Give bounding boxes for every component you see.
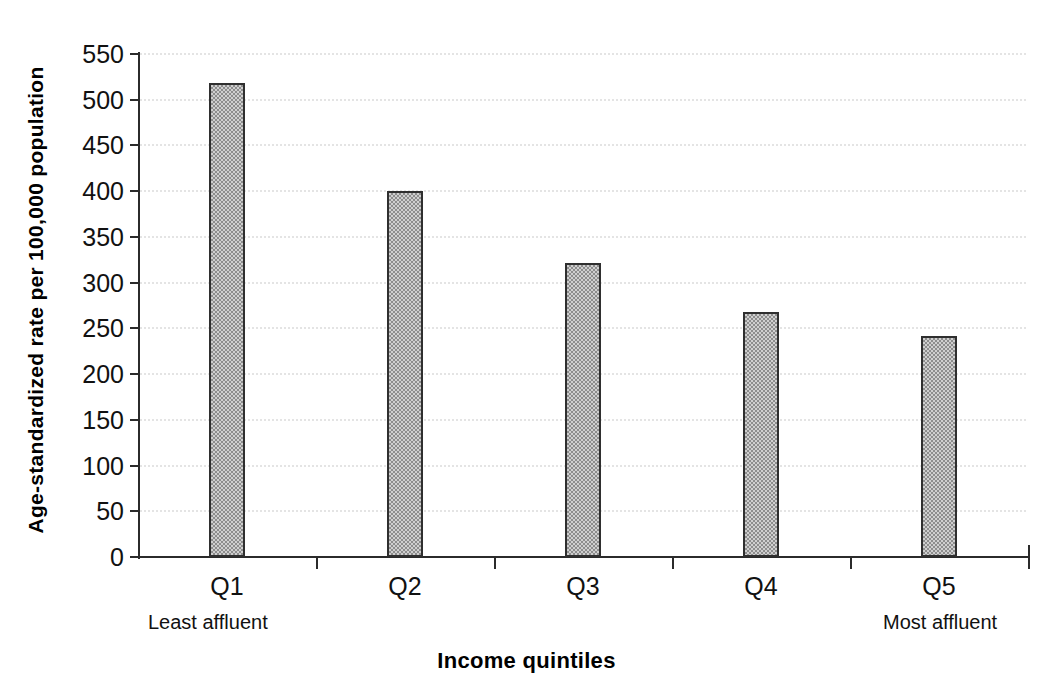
x-tick-mark <box>1028 557 1030 569</box>
y-tick-label: 300 <box>44 268 124 297</box>
y-tick-label: 0 <box>44 543 124 572</box>
annotation-most-affluent: Most affluent <box>883 611 997 634</box>
x-category-label-q4: Q4 <box>701 572 821 601</box>
x-tick-mark <box>494 557 496 569</box>
bar-q3 <box>565 263 601 557</box>
chart-page: Age-standardized rate per 100,000 popula… <box>0 0 1053 694</box>
y-tick-label: 250 <box>44 314 124 343</box>
y-tick-label: 50 <box>44 497 124 526</box>
y-tick-label: 400 <box>44 177 124 206</box>
y-tick-label: 350 <box>44 222 124 251</box>
x-tick-mark <box>316 557 318 569</box>
x-category-label-q1: Q1 <box>167 572 287 601</box>
x-category-label-q2: Q2 <box>345 572 465 601</box>
y-tick-label: 100 <box>44 451 124 480</box>
y-tick-label: 200 <box>44 360 124 389</box>
x-tick-mark <box>850 557 852 569</box>
y-tick-label: 500 <box>44 85 124 114</box>
y-tick-label: 450 <box>44 131 124 160</box>
bar-q4 <box>743 312 779 557</box>
x-category-label-q3: Q3 <box>523 572 643 601</box>
plot-area <box>138 54 1028 557</box>
bar-q2 <box>387 191 423 557</box>
x-category-label-q5: Q5 <box>879 572 999 601</box>
y-tick-label: 550 <box>44 40 124 69</box>
x-axis-title: Income quintiles <box>0 648 1053 674</box>
x-tick-mark <box>672 557 674 569</box>
bar-q1 <box>209 83 245 557</box>
annotation-least-affluent: Least affluent <box>148 611 268 634</box>
y-tick-label: 150 <box>44 405 124 434</box>
bar-q5 <box>921 336 957 557</box>
